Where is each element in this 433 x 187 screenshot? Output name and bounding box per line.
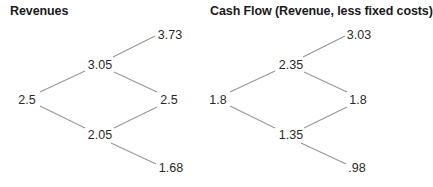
revenues-node-downdown: 1.68 — [159, 161, 183, 175]
cashflow-edge-down-downdown — [301, 143, 346, 164]
revenues-edge-root-down — [40, 106, 85, 128]
revenues-edge-up-updown — [114, 72, 157, 92]
cashflow-edge-root-up — [230, 71, 275, 92]
revenues-edge-up-upup — [113, 36, 155, 57]
revenues-edge-down-updown — [114, 107, 157, 128]
cashflow-node-upup: 3.03 — [347, 28, 371, 42]
revenues-edge-down-downdown — [111, 143, 156, 164]
cashflow-node-downdown: .98 — [348, 161, 365, 175]
cashflow-edge-root-down — [230, 106, 275, 128]
revenues-node-up: 3.05 — [88, 58, 112, 72]
revenues-edge-root-up — [40, 71, 85, 92]
cashflow-edge-up-upup — [303, 36, 345, 57]
cashflow-node-root: 1.8 — [209, 93, 226, 107]
cashflow-edge-down-updown — [304, 107, 347, 128]
cashflow-node-down: 1.35 — [279, 128, 303, 142]
cashflow-node-updown: 1.8 — [349, 93, 366, 107]
revenues-node-down: 2.05 — [88, 128, 112, 142]
revenues-node-root: 2.5 — [18, 93, 35, 107]
revenues-node-updown: 2.5 — [160, 93, 177, 107]
cashflow-node-up: 2.35 — [279, 58, 303, 72]
revenues-node-upup: 3.73 — [158, 28, 182, 42]
cashflow-edge-up-updown — [304, 72, 347, 92]
